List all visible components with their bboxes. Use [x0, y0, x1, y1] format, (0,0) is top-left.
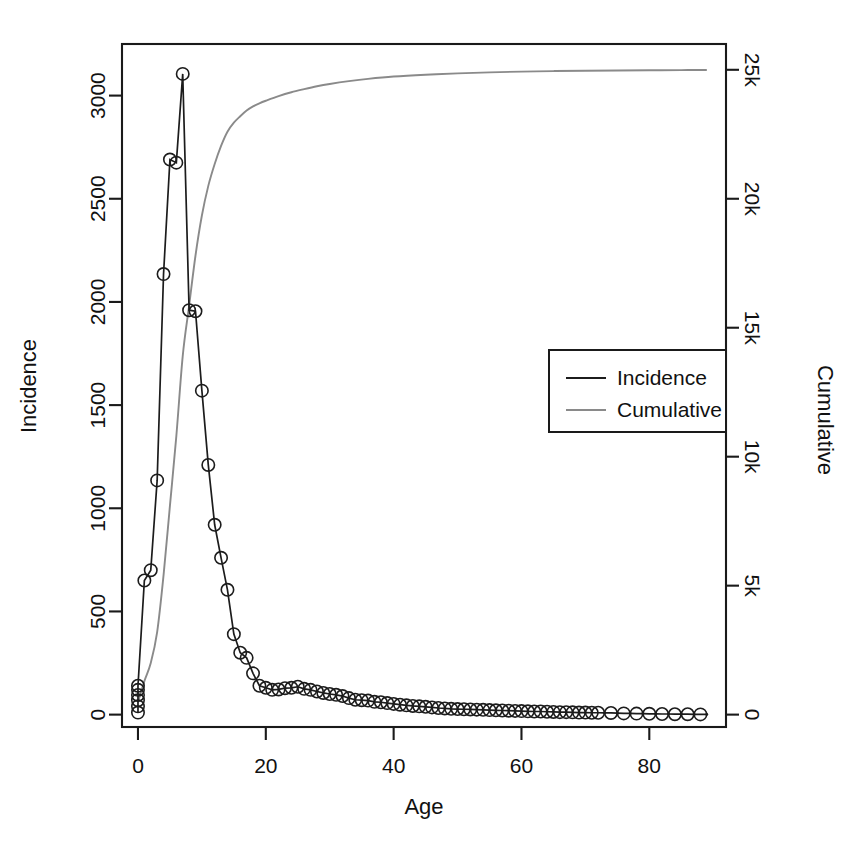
x-tick-label: 0 — [132, 754, 144, 777]
y2-tick-label: 15k — [741, 311, 764, 345]
x-axis-title: Age — [404, 794, 443, 819]
y-tick-label: 0 — [86, 709, 109, 721]
y2-tick-label: 25k — [741, 53, 764, 87]
y2-tick-label: 20k — [741, 182, 764, 216]
y-tick-label: 1000 — [86, 485, 109, 532]
y-tick-label: 1500 — [86, 382, 109, 429]
y-tick-label: 2000 — [86, 279, 109, 326]
chart-figure: 020406080 050010001500200025003000 05k10… — [0, 0, 841, 856]
legend-label-cumulative: Cumulative — [617, 398, 722, 421]
legend-label-incidence: Incidence — [617, 366, 707, 389]
y2-tick-label: 5k — [741, 575, 764, 598]
x-tick-label: 80 — [638, 754, 661, 777]
x-tick-label: 40 — [382, 754, 405, 777]
incidence-cumulative-chart: 020406080 050010001500200025003000 05k10… — [0, 0, 841, 856]
y-tick-label: 500 — [86, 594, 109, 629]
y-axis-left-title: Incidence — [16, 339, 41, 433]
x-tick-label: 60 — [510, 754, 533, 777]
data-point-dot — [705, 713, 708, 716]
y-tick-label: 3000 — [86, 72, 109, 119]
y2-tick-label: 0 — [741, 709, 764, 721]
x-tick-label: 20 — [254, 754, 277, 777]
y-tick-label: 2500 — [86, 175, 109, 222]
y-axis-right-title: Cumulative — [813, 365, 838, 475]
y2-tick-label: 10k — [741, 440, 764, 474]
chart-legend[interactable]: Incidence Cumulative — [549, 350, 726, 432]
